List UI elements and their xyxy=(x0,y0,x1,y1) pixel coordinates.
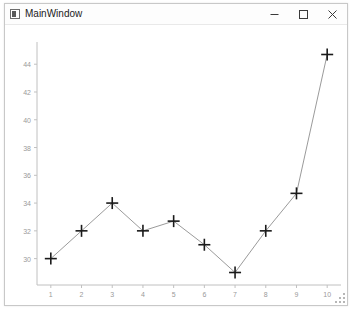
maximize-button[interactable] xyxy=(289,4,318,25)
x-tick-label: 7 xyxy=(233,291,237,298)
y-tick-label: 40 xyxy=(23,117,31,124)
resize-grip-icon[interactable] xyxy=(333,291,346,304)
window-title: MainWindow xyxy=(25,8,82,20)
x-tick-label: 5 xyxy=(172,291,176,298)
minimize-button[interactable] xyxy=(260,4,289,25)
close-icon xyxy=(327,9,338,20)
y-tick-label: 42 xyxy=(23,89,31,96)
x-tick-label: 9 xyxy=(295,291,299,298)
main-window: MainWindow 303234363840424 xyxy=(4,3,348,306)
x-tick-label: 3 xyxy=(110,291,114,298)
plot-canvas: 303234363840424412345678910 xyxy=(5,25,347,305)
x-tick-label: 10 xyxy=(323,291,331,298)
y-tick-label: 30 xyxy=(23,256,31,263)
x-tick-label: 4 xyxy=(141,291,145,298)
window-icon xyxy=(10,9,20,19)
minimize-icon xyxy=(269,9,280,20)
client-area: 303234363840424412345678910 xyxy=(5,25,347,305)
title-bar[interactable]: MainWindow xyxy=(5,4,347,25)
line-chart: 303234363840424412345678910 xyxy=(5,25,347,305)
y-tick-label: 34 xyxy=(23,200,31,207)
data-line xyxy=(51,54,327,272)
y-tick-label: 36 xyxy=(23,172,31,179)
x-tick-label: 8 xyxy=(264,291,268,298)
y-tick-label: 38 xyxy=(23,145,31,152)
y-tick-label: 44 xyxy=(23,61,31,68)
maximize-icon xyxy=(298,9,309,20)
x-tick-label: 1 xyxy=(49,291,53,298)
close-button[interactable] xyxy=(318,4,347,25)
window-controls xyxy=(260,4,347,25)
x-tick-label: 2 xyxy=(80,291,84,298)
x-tick-label: 6 xyxy=(202,291,206,298)
y-tick-label: 32 xyxy=(23,228,31,235)
